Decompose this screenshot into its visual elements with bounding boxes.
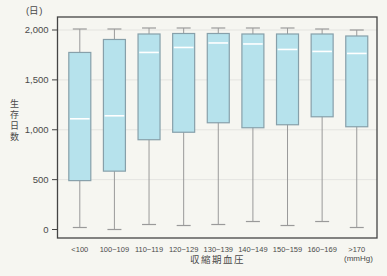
x-category-label: 160~169: [307, 245, 336, 254]
box-iqr: [311, 34, 333, 117]
y-tick-label: 1,500: [25, 74, 49, 85]
y-tick-label: 2,000: [25, 24, 49, 35]
boxplot-chart-canvas: 05001,0001,5002,000<100100~109110~119120…: [0, 0, 387, 276]
x-axis-title: 収縮期血圧: [177, 252, 257, 266]
survival-days-boxplot-figure: (日) 生存日数 05001,0001,5002,000<100100~1091…: [0, 0, 387, 276]
box-iqr: [138, 34, 160, 140]
y-tick-label: 1,000: [25, 124, 49, 135]
y-tick-label: 0: [43, 224, 48, 235]
x-category-label: 150~159: [273, 245, 302, 254]
box-iqr: [69, 52, 91, 180]
x-category-label: 110~119: [135, 245, 163, 254]
box-iqr: [207, 33, 229, 122]
x-category-label: >170: [348, 245, 365, 254]
box-iqr: [103, 39, 125, 171]
box-iqr: [242, 34, 264, 128]
y-tick-label: 500: [33, 174, 49, 185]
x-category-label: <100: [71, 245, 88, 254]
box-iqr: [173, 33, 195, 132]
box-iqr: [277, 34, 299, 125]
box-iqr: [346, 36, 368, 127]
x-category-label: 100~109: [100, 245, 129, 254]
x-axis-unit-label: (mmHg): [344, 254, 373, 263]
